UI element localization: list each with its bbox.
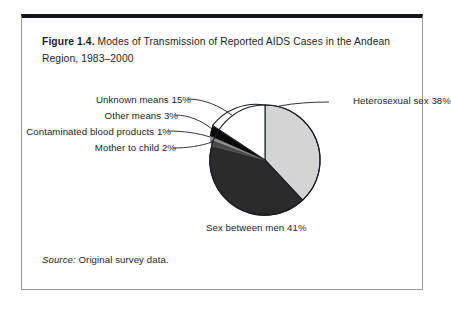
pie-label-mother-to-child: Mother to child 2% <box>95 142 176 153</box>
leader-line-other-means <box>175 115 212 129</box>
leader-line-heterosexual-sex <box>279 102 329 106</box>
figure-number: Figure 1.4. <box>42 36 95 47</box>
pie-label-sex-between-men: Sex between men 41% <box>206 222 307 233</box>
leader-line-contaminated-blood-products <box>168 131 210 137</box>
source-word: Source: <box>42 254 76 265</box>
pie-label-contaminated-blood-products: Contaminated blood products 1% <box>26 126 171 137</box>
pie-label-heterosexual-sex: Heterosexual sex 38% <box>353 95 451 106</box>
pie-chart: Unknown means 15% Other means 3% Contami… <box>21 80 423 250</box>
pie-label-other-means: Other means 3% <box>105 110 178 121</box>
leader-line-mother-to-child <box>173 142 212 148</box>
source-text: Original survey data. <box>79 254 169 265</box>
figure-caption: Figure 1.4. Modes of Transmission of Rep… <box>42 33 392 67</box>
pie-label-unknown-means: Unknown means 15% <box>96 94 191 105</box>
figure-title: Modes of Transmission of Reported AIDS C… <box>42 36 390 64</box>
source-note: Source: Original survey data. <box>42 254 169 265</box>
